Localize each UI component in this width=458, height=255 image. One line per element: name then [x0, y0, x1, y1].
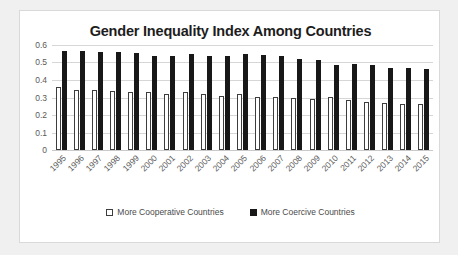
chart-title: Gender Inequality Index Among Countries: [20, 23, 441, 39]
x-axis-label-cell: 2007: [270, 151, 288, 191]
y-axis-tick-label: 0.1: [35, 128, 47, 138]
bar-coercive[interactable]: [243, 54, 248, 150]
bar-cooperative[interactable]: [291, 98, 296, 150]
bar-coercive[interactable]: [116, 52, 121, 150]
bar-cooperative[interactable]: [382, 103, 387, 150]
bar-group: [179, 45, 197, 150]
y-axis-tick-label: 0.3: [35, 93, 47, 103]
bar-group: [125, 45, 143, 150]
chart-card: Gender Inequality Index Among Countries …: [19, 10, 440, 243]
legend-label: More Cooperative Countries: [117, 207, 223, 217]
legend-item[interactable]: More Cooperative Countries: [106, 207, 223, 217]
x-axis-label-cell: 2013: [379, 151, 397, 191]
x-axis-label-cell: 2004: [215, 151, 233, 191]
bar-cooperative[interactable]: [128, 92, 133, 150]
bar-coercive[interactable]: [352, 64, 357, 150]
bar-coercive[interactable]: [297, 59, 302, 150]
bar-cooperative[interactable]: [74, 90, 79, 150]
bar-group: [306, 45, 324, 150]
bar-group: [397, 45, 415, 150]
x-axis-label-cell: 2015: [415, 151, 433, 191]
bar-coercive[interactable]: [80, 51, 85, 150]
y-axis-tick-label: 0: [42, 145, 47, 155]
x-axis-label-cell: 2006: [252, 151, 270, 191]
x-axis-label-cell: 1998: [106, 151, 124, 191]
bar-coercive[interactable]: [316, 60, 321, 150]
x-axis-label-cell: 2002: [179, 151, 197, 191]
bar-cooperative[interactable]: [310, 99, 315, 150]
bar-cooperative[interactable]: [364, 102, 369, 150]
bar-cooperative[interactable]: [255, 97, 260, 150]
bar-group: [215, 45, 233, 150]
bar-coercive[interactable]: [424, 69, 429, 150]
bar-group: [197, 45, 215, 150]
bar-group: [252, 45, 270, 150]
bars-layer: [52, 45, 433, 150]
bar-coercive[interactable]: [225, 56, 230, 151]
x-axis-label-cell: 2001: [161, 151, 179, 191]
bar-cooperative[interactable]: [219, 96, 224, 150]
x-axis-label-cell: 1995: [52, 151, 70, 191]
bar-group: [324, 45, 342, 150]
x-axis-label-cell: 2011: [342, 151, 360, 191]
filled-square-icon: [250, 209, 257, 216]
bar-coercive[interactable]: [334, 65, 339, 150]
bar-cooperative[interactable]: [418, 104, 423, 150]
x-axis-label-cell: 2005: [233, 151, 251, 191]
bar-group: [360, 45, 378, 150]
bar-cooperative[interactable]: [328, 97, 333, 150]
bar-cooperative[interactable]: [146, 92, 151, 150]
bar-coercive[interactable]: [388, 68, 393, 150]
x-axis-labels: 1995199619971998199920002001200220032004…: [52, 151, 433, 191]
bar-group: [52, 45, 70, 150]
bar-coercive[interactable]: [170, 56, 175, 150]
x-axis-tick-label: 2011: [338, 153, 358, 173]
bar-group: [161, 45, 179, 150]
bar-group: [342, 45, 360, 150]
x-axis-label-cell: 2010: [324, 151, 342, 191]
plot-area: 00.10.20.30.40.50.6: [52, 45, 433, 150]
bar-coercive[interactable]: [279, 56, 284, 150]
bar-cooperative[interactable]: [346, 100, 351, 150]
bar-cooperative[interactable]: [56, 87, 61, 150]
bar-group: [88, 45, 106, 150]
y-axis-tick-label: 0.6: [35, 40, 47, 50]
x-axis-label-cell: 1997: [88, 151, 106, 191]
bar-coercive[interactable]: [98, 52, 103, 150]
bar-coercive[interactable]: [134, 53, 139, 150]
bar-cooperative[interactable]: [110, 91, 115, 150]
bar-coercive[interactable]: [406, 68, 411, 150]
chart-legend: More Cooperative CountriesMore Coercive …: [20, 207, 441, 217]
x-axis-label-cell: 1999: [125, 151, 143, 191]
y-axis-tick-label: 0.5: [35, 57, 47, 67]
x-axis-label-cell: 2000: [143, 151, 161, 191]
bar-coercive[interactable]: [189, 54, 194, 150]
bar-cooperative[interactable]: [92, 90, 97, 150]
page-background: Gender Inequality Index Among Countries …: [0, 0, 458, 255]
bar-group: [143, 45, 161, 150]
bar-cooperative[interactable]: [237, 94, 242, 150]
legend-item[interactable]: More Coercive Countries: [250, 207, 355, 217]
x-axis-label-cell: 2012: [360, 151, 378, 191]
x-axis-label-cell: 2014: [397, 151, 415, 191]
bar-group: [415, 45, 433, 150]
legend-label: More Coercive Countries: [261, 207, 355, 217]
bar-cooperative[interactable]: [273, 97, 278, 150]
bar-coercive[interactable]: [152, 56, 157, 150]
bar-coercive[interactable]: [207, 56, 212, 151]
bar-group: [288, 45, 306, 150]
bar-coercive[interactable]: [261, 55, 266, 150]
bar-group: [270, 45, 288, 150]
x-axis-label-cell: 2008: [288, 151, 306, 191]
hollow-square-icon: [106, 209, 113, 216]
bar-cooperative[interactable]: [164, 94, 169, 150]
y-axis-tick-label: 0.4: [35, 75, 47, 85]
bar-cooperative[interactable]: [400, 104, 405, 150]
x-axis-label-cell: 1996: [70, 151, 88, 191]
bar-cooperative[interactable]: [201, 94, 206, 150]
bar-coercive[interactable]: [370, 65, 375, 150]
bar-group: [233, 45, 251, 150]
bar-cooperative[interactable]: [183, 92, 188, 150]
bar-group: [106, 45, 124, 150]
bar-coercive[interactable]: [62, 51, 67, 150]
